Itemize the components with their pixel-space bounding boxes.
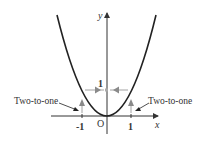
- y1-arrowhead-left-icon: [113, 87, 119, 94]
- annotation-right-text: Two-to-one: [148, 96, 192, 106]
- x-axis-label: x: [154, 119, 160, 130]
- up-arrow-right-icon: [128, 99, 134, 106]
- diagram-canvas: y x O -1 1 1 Two-to-one Two-to-one: [0, 0, 211, 143]
- y-tick-label-1: 1: [98, 78, 103, 89]
- annotation-left-text: Two-to-one: [14, 96, 58, 106]
- parabola-diagram: y x O -1 1 1 Two-to-one Two-to-one: [0, 0, 211, 143]
- up-arrow-left-icon: [79, 99, 85, 106]
- x-tick-label-minus1: -1: [76, 121, 84, 132]
- y1-point-marker: [105, 89, 108, 92]
- origin-label: O: [97, 118, 104, 129]
- annotation-arrowhead-right-icon: [135, 107, 141, 111]
- y-axis-label: y: [97, 10, 103, 21]
- x-tick-label-1: 1: [128, 121, 133, 132]
